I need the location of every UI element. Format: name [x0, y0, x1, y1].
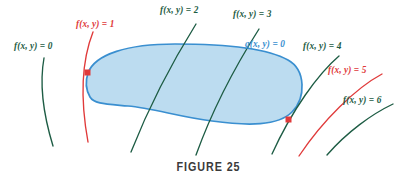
constraint-region-blob	[86, 44, 302, 124]
label-f-equals-5: f(x, y) = 5	[328, 66, 366, 75]
label-f-equals-3: f(x, y) = 3	[233, 10, 271, 19]
label-f-equals-0: f(x, y) = 0	[14, 42, 52, 51]
label-g-equals-0: g(x, y) = 0	[245, 40, 285, 49]
figure-caption: FIGURE 25	[29, 160, 388, 174]
right-tangent-point-marker	[286, 117, 292, 123]
label-f-equals-4: f(x, y) = 4	[303, 42, 341, 51]
label-f-equals-1: f(x, y) = 1	[76, 20, 114, 29]
label-f-equals-2: f(x, y) = 2	[160, 6, 198, 15]
label-f-equals-6: f(x, y) = 6	[343, 96, 381, 105]
level-curve-f-0	[42, 58, 53, 146]
level-curve-f-6	[327, 104, 393, 155]
figure-25-container: f(x, y) = 0 f(x, y) = 1 f(x, y) = 2 f(x,…	[0, 0, 417, 191]
left-tangent-point-marker	[85, 70, 91, 76]
